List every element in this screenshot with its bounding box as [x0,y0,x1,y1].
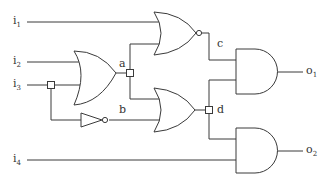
label-node-a: a [119,58,126,69]
label-o2: o2 [306,144,317,158]
and-gate-2 [236,128,278,173]
nor-gate [154,12,196,55]
logic-circuit-diagram: i1 i2 i3 i4 a b c d o1 o2 [0,0,329,179]
or-gate-1 [74,51,116,105]
junction-d [206,107,213,114]
not-gate [81,113,102,127]
label-i3: i3 [13,78,21,92]
label-i4: i4 [13,153,21,167]
label-node-b: b [119,104,126,115]
and-gate-1 [236,49,278,94]
label-node-c: c [217,38,223,49]
label-i1: i1 [13,15,21,29]
or-gate-2 [154,88,195,132]
label-o1: o1 [306,65,317,79]
junction-i3 [48,82,55,89]
circuit-svg [0,0,329,179]
label-node-d: d [217,104,224,115]
label-i2: i2 [13,55,21,69]
junction-a [127,70,134,77]
nor-bubble [196,30,201,35]
not-bubble [102,117,107,122]
